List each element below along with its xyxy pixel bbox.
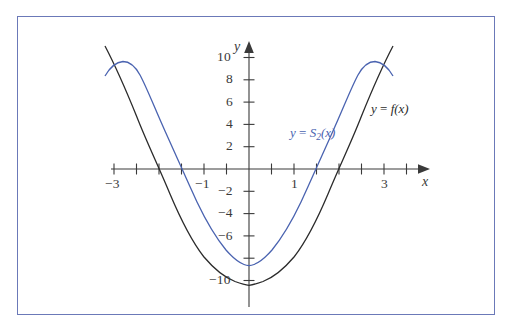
plot-canvas (18, 17, 493, 313)
figure-root: y x 10 8 6 4 2 −2 −4 −6 −10 −3 −1 1 3 y … (0, 0, 513, 333)
y-tick-label-neg4: −4 (218, 205, 233, 221)
curve-label-s2-arg: (x) (321, 125, 335, 140)
curve-label-s2-eq: = (296, 125, 310, 140)
y-tick-label-2: 2 (226, 138, 233, 154)
x-tick-label-1: 1 (291, 176, 298, 192)
y-axis (244, 41, 254, 307)
x-tick-label-neg3: −3 (105, 176, 120, 192)
y-tick-label-4: 4 (226, 116, 233, 132)
y-tick-label-8: 8 (226, 71, 233, 87)
x-axis-label: x (422, 174, 428, 190)
figure-frame-border: y x 10 8 6 4 2 −2 −4 −6 −10 −3 −1 1 3 y … (17, 16, 495, 315)
y-tick-label-neg2: −2 (218, 183, 233, 199)
curve-label-f-arg: (x) (394, 101, 408, 116)
y-tick-label-10: 10 (217, 49, 231, 65)
curve-label-s2: y = S2(x) (290, 125, 335, 142)
y-tick-label-neg6: −6 (218, 228, 233, 244)
x-tick-label-neg1: −1 (195, 176, 210, 192)
curve-label-f-eq: = (377, 101, 391, 116)
x-tick-label-3: 3 (381, 176, 388, 192)
y-axis-label: y (234, 39, 240, 55)
y-tick-label-neg10: −10 (209, 272, 231, 288)
curve-label-f: y = f(x) (371, 101, 409, 117)
y-tick-label-6: 6 (226, 94, 233, 110)
